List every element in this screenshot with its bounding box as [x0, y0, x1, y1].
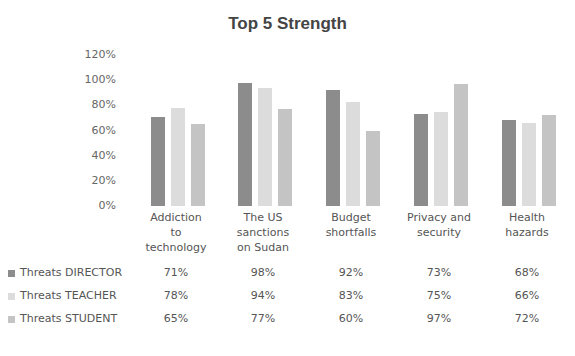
data-cell: 72% [502, 312, 552, 325]
bar [326, 90, 340, 206]
data-cell: 97% [414, 312, 464, 325]
bar [258, 88, 272, 206]
data-cell: 71% [151, 266, 201, 279]
legend-key-icon [8, 270, 15, 277]
chart-title: Top 5 Strength [0, 14, 575, 34]
category-label: Privacy andsecurity [395, 210, 483, 240]
bar [238, 83, 252, 206]
data-cell: 78% [151, 289, 201, 302]
category-label: Budgetshortfalls [307, 210, 395, 240]
legend-row: Threats STUDENT65%77%60%97%72% [0, 312, 575, 330]
data-cell: 77% [238, 312, 288, 325]
data-cell: 83% [326, 289, 376, 302]
bar [366, 131, 380, 207]
legend-row: Threats DIRECTOR71%98%92%73%68% [0, 266, 575, 284]
bar [346, 102, 360, 206]
y-tick-label: 120% [60, 48, 116, 61]
bar [454, 84, 468, 206]
bar [151, 117, 165, 206]
bar [414, 114, 428, 206]
legend-label: Threats STUDENT [20, 312, 117, 325]
data-cell: 98% [238, 266, 288, 279]
data-cell: 73% [414, 266, 464, 279]
bar [278, 109, 292, 206]
data-cell: 60% [326, 312, 376, 325]
legend-label: Threats TEACHER [20, 289, 117, 302]
data-cell: 94% [238, 289, 288, 302]
data-cell: 75% [414, 289, 464, 302]
y-tick-label: 60% [60, 124, 116, 137]
data-cell: 92% [326, 266, 376, 279]
y-tick-label: 80% [60, 98, 116, 111]
bar [522, 123, 536, 206]
plot-area [136, 55, 575, 206]
category-label: Addictiontotechnology [132, 210, 220, 255]
y-tick-label: 40% [60, 149, 116, 162]
data-cell: 68% [502, 266, 552, 279]
data-cell: 65% [151, 312, 201, 325]
legend-label: Threats DIRECTOR [20, 266, 122, 279]
bar [171, 108, 185, 206]
data-cell: 66% [502, 289, 552, 302]
legend-key-icon [8, 316, 15, 323]
category-label: The USsanctionson Sudan [219, 210, 307, 255]
legend-key-icon [8, 293, 15, 300]
bar [191, 124, 205, 206]
legend-row: Threats TEACHER78%94%83%75%66% [0, 289, 575, 307]
y-tick-label: 0% [60, 199, 116, 212]
y-tick-label: 100% [60, 73, 116, 86]
bar [542, 115, 556, 206]
y-tick-label: 20% [60, 174, 116, 187]
bar [434, 112, 448, 206]
category-label: Healthhazards [483, 210, 571, 240]
bar [502, 120, 516, 206]
